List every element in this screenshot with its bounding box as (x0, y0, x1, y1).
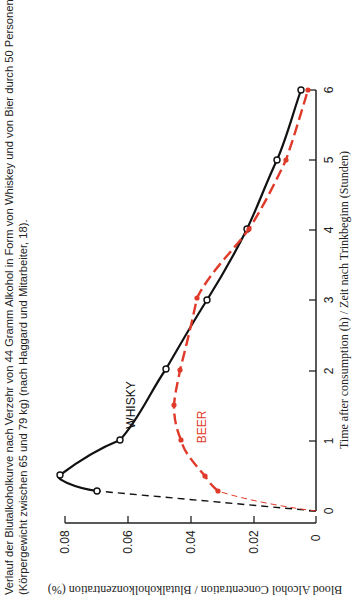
beer-point (202, 473, 207, 478)
time-axis-ticks (309, 90, 316, 511)
whisky-point (298, 87, 304, 93)
time-axis-tick-labels: 0 1 2 3 4 5 6 (322, 86, 336, 514)
concentration-axis-tick-labels: 0.08 0.06 0.04 0.02 0 (58, 530, 323, 554)
whisky-point (274, 157, 280, 163)
chart-canvas: Verlauf der Blutalkoholkurve nach Verzeh… (0, 0, 353, 601)
beer-onset-dashed-line (218, 491, 316, 511)
whisky-label: WHISKY (124, 381, 138, 428)
conc-tick-0: 0 (309, 534, 323, 541)
chart-caption-line2: (Körpergewicht zwischen 65 und 79 kg) (n… (17, 219, 29, 595)
whisky-point (57, 472, 63, 478)
concentration-axis-ticks (65, 516, 316, 523)
time-tick-6: 6 (322, 86, 336, 93)
beer-point (215, 488, 220, 493)
whisky-point (94, 488, 100, 494)
conc-tick-0.04: 0.04 (184, 530, 198, 554)
beer-point (246, 226, 251, 231)
time-tick-5: 5 (322, 156, 336, 163)
beer-point (177, 367, 182, 372)
beer-series: BEER (171, 87, 316, 511)
chart-caption-line1: Verlauf der Blutalkoholkurve nach Verzeh… (3, 0, 15, 595)
conc-tick-0.02: 0.02 (247, 530, 261, 554)
whisky-point (204, 297, 210, 303)
conc-tick-0.06: 0.06 (121, 530, 135, 554)
time-axis-title: Time after consumption (h) / Zeit nach T… (337, 151, 351, 449)
whisky-onset-dashed-line (97, 491, 316, 511)
beer-point (171, 402, 176, 407)
time-tick-0: 0 (322, 507, 336, 514)
beer-point (305, 87, 310, 92)
beer-point (194, 295, 199, 300)
whisky-curve (58, 90, 301, 491)
time-tick-3: 3 (322, 296, 336, 303)
conc-tick-0.08: 0.08 (58, 530, 72, 554)
whisky-point (163, 366, 169, 372)
beer-point (178, 437, 183, 442)
time-tick-4: 4 (322, 226, 336, 233)
concentration-axis-title: Blood Alcohol Concentration / Blutalkoho… (48, 583, 342, 597)
time-tick-1: 1 (322, 437, 336, 444)
beer-label: BEER (195, 410, 209, 443)
time-tick-2: 2 (322, 367, 336, 374)
whisky-point (117, 437, 123, 443)
whisky-series: WHISKY (57, 87, 316, 511)
beer-point (283, 157, 288, 162)
